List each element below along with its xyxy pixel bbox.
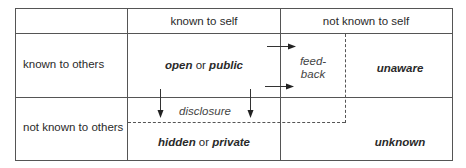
quadrant-unaware: unaware: [377, 62, 424, 74]
feedback-line-1: feed-: [300, 55, 326, 68]
private-label: private: [212, 136, 250, 148]
quadrant-hidden-private: hidden or private: [158, 136, 250, 148]
or-connector: or: [196, 136, 213, 148]
feedback-line-2: back: [300, 68, 326, 81]
feedback-arrow-top-icon: [266, 42, 298, 51]
feedback-arrow-bottom-icon: [264, 82, 296, 91]
table-bottom-border: [15, 160, 453, 161]
table-right-border: [452, 8, 453, 161]
quadrant-unknown: unknown: [375, 136, 425, 148]
table-top-border: [15, 8, 453, 9]
feedback-annotation: feed- back: [300, 55, 326, 81]
feedback-boundary-dashed: [345, 34, 346, 123]
disclosure-boundary-dashed: [128, 122, 345, 123]
header-divider: [15, 33, 453, 34]
disclosure-arrow-left-icon: [156, 89, 165, 120]
row-label-known-to-others: known to others: [23, 58, 104, 70]
row-label-not-known-to-others: not known to others: [23, 121, 123, 133]
column-header-known-to-self: known to self: [170, 15, 237, 27]
or-connector: or: [192, 59, 209, 71]
disclosure-arrow-right-icon: [246, 89, 255, 120]
row-divider: [15, 97, 453, 98]
open-label: open: [165, 59, 192, 71]
table-left-border: [15, 8, 16, 161]
quadrant-open-public: open or public: [165, 59, 243, 71]
label-column-divider: [127, 8, 128, 161]
public-label: public: [209, 59, 243, 71]
hidden-label: hidden: [158, 136, 196, 148]
column-header-not-known-to-self: not known to self: [323, 15, 409, 27]
disclosure-annotation: disclosure: [179, 105, 231, 117]
